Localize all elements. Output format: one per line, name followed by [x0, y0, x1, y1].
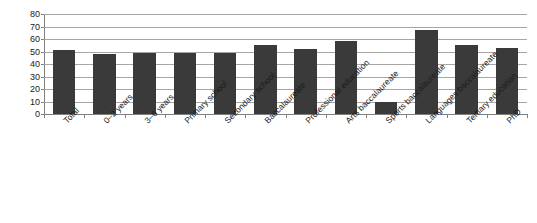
x-tick-mark	[84, 114, 85, 118]
bar[interactable]	[133, 53, 156, 114]
x-axis-category-labels: Total0–2 years3–6 yearsPrimary schoolSec…	[44, 119, 537, 223]
x-tick-mark	[366, 114, 367, 118]
x-tick-mark	[125, 114, 126, 118]
x-tick-mark	[326, 114, 327, 118]
bar-slot	[84, 14, 124, 114]
x-tick-mark	[447, 114, 448, 118]
bar[interactable]	[53, 50, 76, 114]
x-tick-mark	[165, 114, 166, 118]
bar[interactable]	[174, 53, 197, 114]
x-tick-mark	[44, 114, 45, 118]
bar-slot	[44, 14, 84, 114]
x-tick-mark	[205, 114, 206, 118]
bar-chart-figure: 01020304050607080 Total0–2 years3–6 year…	[0, 0, 537, 223]
x-tick-mark	[406, 114, 407, 118]
x-tick-mark	[245, 114, 246, 118]
x-tick-mark	[286, 114, 287, 118]
y-axis-tick-marks	[0, 14, 45, 114]
x-tick-mark	[527, 114, 528, 118]
bar[interactable]	[93, 54, 116, 114]
x-tick-mark	[487, 114, 488, 118]
